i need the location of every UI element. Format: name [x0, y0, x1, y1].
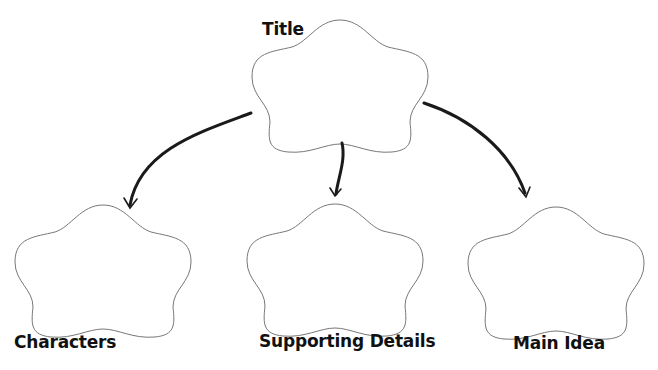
- supporting-details-cloud: [247, 204, 423, 336]
- arrow-to-characters: [130, 113, 251, 205]
- arrow-to-main-idea: [424, 103, 525, 193]
- node-label-title: Title: [262, 19, 304, 39]
- arrow-to-supporting-details: [336, 143, 343, 194]
- node-label-supporting-details: Supporting Details: [259, 331, 435, 351]
- title-cloud: [252, 20, 428, 152]
- characters-cloud: [15, 205, 191, 337]
- diagram-canvas: [0, 0, 658, 370]
- node-label-characters: Characters: [14, 332, 116, 352]
- main-idea-cloud: [468, 207, 644, 339]
- node-label-main-idea: Main Idea: [513, 333, 605, 353]
